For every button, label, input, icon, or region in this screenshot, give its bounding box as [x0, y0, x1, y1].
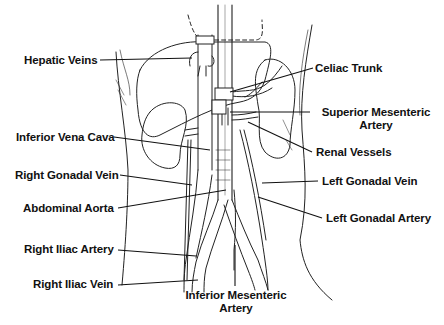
leader-ivc — [114, 137, 210, 150]
label-sma-line1: Superior Mesenteric — [312, 106, 440, 119]
leader-right-gonadal-vein — [120, 175, 192, 185]
label-abdominal-aorta: Abdominal Aorta — [23, 202, 114, 215]
label-celiac-trunk: Celiac Trunk — [315, 62, 382, 75]
label-ima-line1: Inferior Mesenteric — [176, 289, 296, 302]
hepatic-vein-branches — [189, 52, 214, 76]
label-ima-line2: Artery — [176, 302, 296, 315]
leader-left-gonadal-artery — [258, 197, 322, 218]
anatomy-diagram: Hepatic Veins Inferior Vena Cava Right G… — [0, 0, 444, 325]
label-inferior-mesenteric-artery: Inferior Mesenteric Artery — [176, 289, 296, 315]
leader-left-gonadal-vein — [262, 181, 318, 183]
vasculature-illustration — [0, 0, 444, 325]
left-gonadal-vessel — [240, 130, 268, 290]
label-left-gonadal-vein: Left Gonadal Vein — [322, 175, 417, 188]
left-kidney — [255, 59, 295, 158]
label-right-iliac-artery: Right Iliac Artery — [24, 243, 114, 256]
label-sma-line2: Artery — [312, 119, 440, 132]
label-superior-mesenteric-artery: Superior Mesenteric Artery — [312, 106, 440, 132]
label-right-iliac-vein: Right Iliac Vein — [33, 278, 113, 291]
label-inferior-vena-cava: Inferior Vena Cava — [16, 131, 115, 144]
right-gonadal-vessel — [184, 140, 191, 280]
leader-abdominal-aorta — [118, 190, 226, 208]
label-hepatic-veins: Hepatic Veins — [24, 54, 97, 67]
leader-hepatic-veins — [100, 58, 192, 60]
right-iliac-artery — [192, 200, 228, 292]
liver-outline — [137, 42, 271, 137]
label-left-gonadal-artery: Left Gonadal Artery — [326, 212, 431, 225]
leader-right-iliac-vein — [118, 280, 198, 285]
label-renal-vessels: Renal Vessels — [316, 146, 391, 159]
label-right-gonadal-vein: Right Gonadal Vein — [15, 169, 119, 182]
